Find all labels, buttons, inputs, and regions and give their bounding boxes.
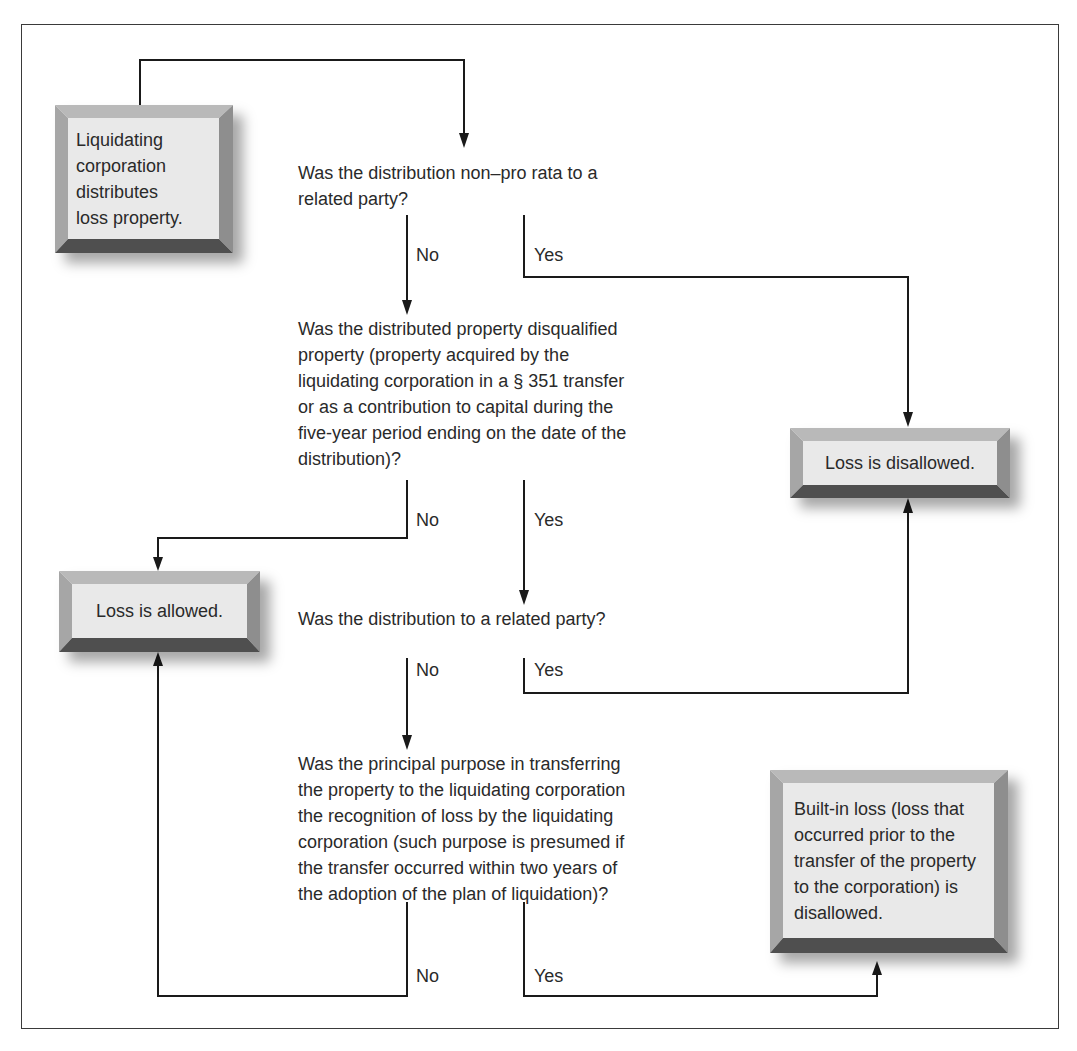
question-2: Was the distributed property disqualifie… [298,316,626,472]
q2-no-label: No [416,509,439,531]
q4-yes-label: Yes [534,965,563,987]
arrowhead [903,412,913,427]
arrow-q2-no [158,480,407,557]
arrowhead [872,961,882,975]
arrowhead [519,590,529,605]
outcome-built-in-loss-text: Built-in loss (loss that occurred prior … [783,783,994,938]
outcome-allowed-text: Loss is allowed. [72,584,247,638]
q1-yes-label: Yes [534,244,563,266]
q3-no-label: No [416,659,439,681]
arrowhead [459,133,469,148]
q2-yes-label: Yes [534,509,563,531]
arrowhead [402,300,412,315]
start-box-text: Liquidating corporation distributes loss… [68,118,219,239]
arrowhead [153,557,163,571]
q3-yes-label: Yes [534,659,563,681]
q1-no-label: No [416,244,439,266]
outcome-built-in-loss-box: Built-in loss (loss that occurred prior … [770,770,1008,953]
arrowhead [402,735,412,750]
arrowhead [903,498,913,513]
outcome-disallowed-box: Loss is disallowed. [790,428,1010,498]
question-4: Was the principal purpose in transferrin… [298,751,625,907]
start-box: Liquidating corporation distributes loss… [55,105,233,253]
outcome-disallowed-text: Loss is disallowed. [803,441,997,485]
question-3: Was the distribution to a related party? [298,606,606,632]
arrowhead [153,652,163,666]
question-1: Was the distribution non–pro rata to a r… [298,160,598,212]
q4-no-label: No [416,965,439,987]
outcome-allowed-box: Loss is allowed. [59,571,260,652]
arrow-q3-yes [524,513,908,693]
